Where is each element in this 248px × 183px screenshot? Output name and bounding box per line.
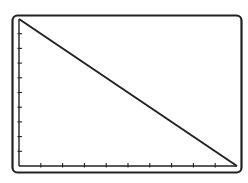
axis-ticks [18, 34, 216, 168]
chart-frame [13, 16, 242, 173]
line-chart [0, 0, 248, 183]
data-series [19, 19, 237, 166]
series-line [19, 19, 237, 166]
